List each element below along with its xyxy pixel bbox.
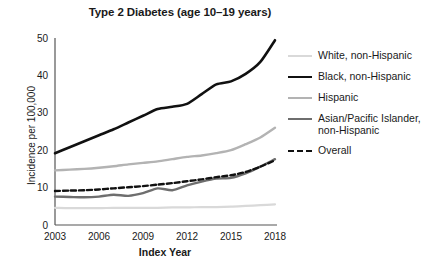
chart-legend: White, non-HispanicBlack, non-HispanicHi… [288,48,440,164]
chart-page: Type 2 Diabetes (age 10–19 years) 010203… [0,0,440,269]
legend-label: Black, non-Hispanic [318,69,411,82]
series-line [55,128,275,171]
legend-label: White, non-Hispanic [318,48,412,61]
y-tick-label: 30 [37,107,49,118]
legend-line-icon [288,90,312,104]
y-tick-label: 40 [37,70,49,81]
legend-label: Asian/Pacific Islander, non-Hispanic [318,111,440,136]
series-line [55,204,275,208]
legend-line-icon [288,143,312,157]
y-axis-label: Incidence per 100,000 [26,56,37,216]
y-tick-label: 50 [37,33,49,44]
legend-item[interactable]: Overall [288,143,440,157]
x-tick-label: 2009 [132,231,155,242]
x-tick-label: 2012 [176,231,199,242]
data-series-group [55,40,275,208]
x-tick-label: 2015 [220,231,243,242]
legend-item[interactable]: Asian/Pacific Islander, non-Hispanic [288,111,440,136]
legend-label: Hispanic [318,90,358,103]
legend-label: Overall [318,143,351,156]
series-line [55,40,275,153]
x-tick-label: 2006 [88,231,111,242]
legend-line-icon [288,48,312,62]
legend-item[interactable]: Black, non-Hispanic [288,69,440,83]
x-tick-labels: 200320062009201220152018 [44,231,287,242]
legend-line-icon [288,111,312,125]
x-tick-label: 2003 [44,231,67,242]
y-tick-label: 20 [37,145,49,156]
y-tick-label: 10 [37,182,49,193]
legend-item[interactable]: White, non-Hispanic [288,48,440,62]
legend-line-icon [288,69,312,83]
legend-item[interactable]: Hispanic [288,90,440,104]
x-axis-label: Index Year [55,246,275,258]
y-tick-label: 0 [42,220,48,231]
x-tick-label: 2018 [264,231,287,242]
y-tick-labels: 01020304050 [37,33,49,231]
series-line [55,159,275,197]
